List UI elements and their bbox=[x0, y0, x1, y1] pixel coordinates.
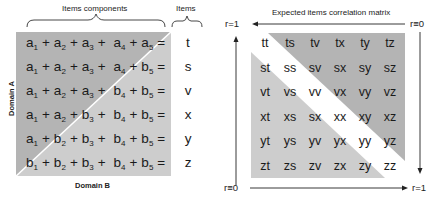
matrix-cell-tx: tx bbox=[328, 36, 352, 50]
item-z: z bbox=[178, 155, 198, 170]
matrix-cell-xs: xs bbox=[278, 110, 302, 124]
matrix-cell-vt: vt bbox=[253, 85, 277, 99]
plus-sign: + bbox=[38, 155, 54, 170]
term-b3: b3 bbox=[82, 155, 94, 170]
plus-sign: + bbox=[38, 59, 54, 74]
label-top-left: r=1 bbox=[225, 18, 239, 29]
plus-sign: + bbox=[126, 83, 142, 98]
equals-sign: = bbox=[153, 131, 165, 146]
term-b2: b2 bbox=[54, 131, 66, 146]
matrix-cell-ty: ty bbox=[353, 36, 377, 50]
right-arrow-head-icon bbox=[418, 168, 423, 174]
plus-sign: + bbox=[126, 131, 142, 146]
plus-sign: + bbox=[94, 35, 114, 50]
matrix-cell-yt: yt bbox=[253, 134, 277, 148]
term-a4: a4 bbox=[113, 35, 125, 50]
matrix-cell-ss: ss bbox=[278, 61, 302, 75]
term-a2: a2 bbox=[54, 59, 66, 74]
domain-a-label: Domain A bbox=[7, 74, 16, 124]
item-y: y bbox=[178, 131, 198, 146]
components-brace-icon bbox=[27, 14, 165, 27]
matrix-cell-vx: vx bbox=[328, 85, 352, 99]
term-b5: b5 bbox=[141, 83, 153, 98]
matrix-cell-st: st bbox=[253, 61, 277, 75]
bottom-arrow-head-icon bbox=[402, 186, 408, 191]
equals-sign: = bbox=[153, 155, 165, 170]
equation-row: a1 + a2 + b3 + b4 + b5 = bbox=[26, 107, 180, 124]
term-b4: b4 bbox=[113, 155, 125, 170]
term-b1: b1 bbox=[26, 155, 38, 170]
term-a1: a1 bbox=[26, 107, 38, 122]
item-s: s bbox=[178, 59, 198, 74]
matrix-title: Expected items correlation matrix bbox=[272, 8, 390, 17]
items-brace-icon bbox=[172, 16, 202, 27]
plus-sign: + bbox=[66, 131, 82, 146]
item-v: v bbox=[178, 83, 198, 98]
matrix-cell-tt: tt bbox=[253, 36, 277, 50]
matrix-cell-yz: yz bbox=[378, 134, 402, 148]
term-b5: b5 bbox=[141, 155, 153, 170]
matrix-cell-zv: zv bbox=[303, 159, 327, 173]
items-list: tsvxyz bbox=[178, 35, 198, 180]
plus-sign: + bbox=[38, 83, 54, 98]
matrix-cell-vs: vs bbox=[278, 85, 302, 99]
matrix-cell-zt: zt bbox=[253, 159, 277, 173]
plus-sign: + bbox=[94, 59, 114, 74]
matrix-cell-xt: xt bbox=[253, 110, 277, 124]
equation-row: a1 + a2 + a3 + a4 + b5 = bbox=[26, 59, 180, 76]
label-bottom-left: r≡0 bbox=[224, 182, 238, 193]
plus-sign: + bbox=[38, 131, 54, 146]
equals-sign: = bbox=[153, 59, 165, 74]
term-a3: a3 bbox=[82, 59, 94, 74]
matrix-cell-ts: ts bbox=[278, 36, 302, 50]
matrix-cell-yx: yx bbox=[328, 134, 352, 148]
equation-row: a1 + b2 + b3 + b4 + b5 = bbox=[26, 131, 180, 148]
equals-sign: = bbox=[153, 107, 165, 122]
matrix-cell-zx: zx bbox=[328, 159, 352, 173]
matrix-cell-vz: vz bbox=[378, 85, 402, 99]
plus-sign: + bbox=[126, 107, 142, 122]
equals-sign: = bbox=[153, 35, 165, 50]
matrix-cell-xx: xx bbox=[328, 110, 352, 124]
label-top-right: r≡0 bbox=[410, 18, 424, 29]
items-header: Items bbox=[176, 4, 196, 13]
matrix-cell-zz: zz bbox=[378, 159, 402, 173]
plus-sign: + bbox=[94, 131, 114, 146]
plus-sign: + bbox=[126, 35, 142, 50]
matrix-cell-sx: sx bbox=[303, 110, 327, 124]
plus-sign: + bbox=[66, 35, 82, 50]
term-b5: b5 bbox=[141, 107, 153, 122]
equations-list: a1 + a2 + a3 + a4 + a5 =a1 + a2 + a3 + a… bbox=[26, 35, 186, 180]
plus-sign: + bbox=[66, 83, 82, 98]
term-a1: a1 bbox=[26, 59, 38, 74]
matrix-cell-zy: zy bbox=[353, 159, 377, 173]
domain-b-label: Domain B bbox=[75, 181, 110, 190]
matrix-cell-tz: tz bbox=[378, 36, 402, 50]
term-b4: b4 bbox=[113, 131, 125, 146]
term-a5: a5 bbox=[141, 35, 153, 50]
term-a3: a3 bbox=[82, 83, 94, 98]
top-arrow-head-icon bbox=[252, 22, 258, 27]
term-b5: b5 bbox=[141, 59, 153, 74]
matrix-cell-tv: tv bbox=[303, 36, 327, 50]
label-bottom-right: r=1 bbox=[412, 182, 426, 193]
term-a2: a2 bbox=[54, 83, 66, 98]
items-components-header: Items components bbox=[62, 4, 127, 13]
matrix-cell-sv: sv bbox=[303, 61, 327, 75]
term-a3: a3 bbox=[82, 35, 94, 50]
plus-sign: + bbox=[66, 59, 82, 74]
term-a1: a1 bbox=[26, 35, 38, 50]
term-b2: b2 bbox=[54, 155, 66, 170]
item-t: t bbox=[178, 35, 198, 50]
plus-sign: + bbox=[94, 83, 114, 98]
matrix-cell-sy: sy bbox=[353, 61, 377, 75]
term-a4: a4 bbox=[113, 59, 125, 74]
matrix-cell-sx: sx bbox=[328, 61, 352, 75]
plus-sign: + bbox=[38, 35, 54, 50]
matrix-cell-yv: yv bbox=[303, 134, 327, 148]
plus-sign: + bbox=[126, 155, 142, 170]
term-b3: b3 bbox=[82, 131, 94, 146]
equation-row: b1 + b2 + b3 + b4 + b5 = bbox=[26, 155, 180, 172]
term-a2: a2 bbox=[54, 107, 66, 122]
plus-sign: + bbox=[94, 107, 114, 122]
